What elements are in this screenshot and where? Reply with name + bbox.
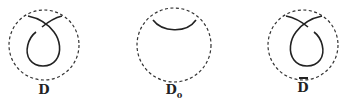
label-dbar: D — [283, 77, 323, 95]
over-strand — [290, 16, 323, 66]
label-d: D — [24, 82, 64, 97]
label-text: D — [166, 82, 177, 97]
dashed-circle — [137, 8, 211, 82]
under-strand — [42, 16, 62, 27]
diagram-d — [9, 10, 79, 80]
label-subscript: 0 — [177, 90, 183, 100]
diagram-d0 — [137, 8, 211, 82]
overline-bar — [299, 77, 308, 79]
dashed-circle — [268, 10, 338, 80]
label-d0: D0 — [154, 82, 194, 100]
label-text: D — [38, 82, 49, 97]
over-strand — [27, 16, 60, 66]
diagram-dbar — [268, 10, 338, 80]
under-strand — [286, 16, 308, 27]
dashed-circle — [9, 10, 79, 80]
label-text: D — [297, 80, 308, 95]
smoothed-arc — [153, 20, 196, 30]
